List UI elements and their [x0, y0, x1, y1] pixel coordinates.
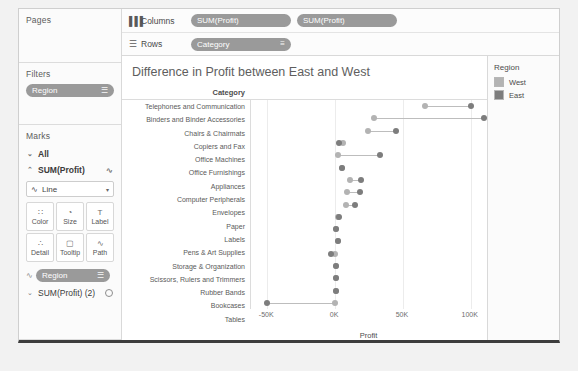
row-label[interactable]: Computer Peripherals	[122, 193, 250, 206]
legend-item-east[interactable]: East	[494, 90, 553, 100]
legend-label-east: East	[509, 91, 524, 100]
worksheet-sheet: Difference in Profit between East and We…	[122, 56, 487, 340]
data-point-west[interactable]	[371, 115, 377, 121]
data-point-east[interactable]	[377, 152, 383, 158]
filter-pill-region[interactable]: Region ☰	[26, 84, 114, 97]
rows-icon: ☰	[129, 39, 141, 49]
connector-line	[368, 131, 396, 132]
mark-property-label-label: Label	[91, 218, 108, 225]
mark-property-label[interactable]: T Label	[86, 202, 114, 231]
row-label[interactable]: Appliances	[122, 180, 250, 193]
chevron-down-icon: ▾	[106, 186, 109, 193]
marks-group-sum-profit[interactable]: ⌃ SUM(Profit) ∿	[26, 162, 114, 178]
color-legend-icon[interactable]: ☰	[97, 272, 104, 280]
row-axis-labels: Telephones and CommunicationBinders and …	[122, 99, 250, 326]
gridline	[471, 100, 472, 309]
data-point-east[interactable]	[333, 263, 339, 269]
row-label[interactable]: Rubber Bands	[122, 286, 250, 299]
data-point-east[interactable]	[328, 251, 334, 257]
data-point-east[interactable]	[357, 189, 363, 195]
mark-property-size-label: Size	[63, 218, 77, 225]
row-label[interactable]: Pens & Art Supplies	[122, 246, 250, 259]
data-point-west[interactable]	[344, 189, 350, 195]
x-tick-label: 0K	[330, 311, 339, 318]
row-label[interactable]: Storage & Organization	[122, 260, 250, 273]
columns-pill-1[interactable]: SUM(Profit)	[191, 14, 291, 27]
row-label[interactable]: Binders and Binder Accessories	[122, 113, 250, 126]
x-tick-label: 50K	[396, 311, 408, 318]
row-label[interactable]: Office Machines	[122, 153, 250, 166]
data-point-east[interactable]	[358, 177, 364, 183]
data-point-west[interactable]	[335, 152, 341, 158]
data-point-east[interactable]	[393, 128, 399, 134]
row-label[interactable]: Paper	[122, 220, 250, 233]
rows-pill-category-label: Category	[197, 40, 229, 49]
row-label[interactable]: Envelopes	[122, 206, 250, 219]
data-point-east[interactable]	[352, 202, 358, 208]
marks-group-all-label: All	[38, 149, 49, 159]
data-point-east[interactable]	[333, 226, 339, 232]
chevron-down-icon: ⌄	[27, 150, 34, 158]
data-point-west[interactable]	[422, 103, 428, 109]
data-point-west[interactable]	[347, 177, 353, 183]
legend-label-west: West	[509, 78, 526, 87]
data-point-west[interactable]	[365, 128, 371, 134]
row-label[interactable]: Copiers and Fax	[122, 140, 250, 153]
panel-column: -50K0K50K100K Profit	[250, 86, 487, 340]
rows-shelf[interactable]: ☰ Rows Category ≡	[122, 32, 559, 55]
data-point-east[interactable]	[336, 140, 342, 146]
marks-group-all[interactable]: ⌄ All	[26, 146, 114, 162]
columns-pill-2[interactable]: SUM(Profit)	[297, 14, 397, 27]
columns-shelf[interactable]: ▌▌▌ Columns SUM(Profit) SUM(Profit)	[122, 9, 559, 32]
mark-property-color-label: Color	[32, 218, 49, 225]
row-label[interactable]: Labels	[122, 233, 250, 246]
data-point-east[interactable]	[333, 275, 339, 281]
data-point-east[interactable]	[333, 288, 339, 294]
data-point-west[interactable]	[332, 300, 338, 306]
pages-card: Pages	[19, 9, 121, 63]
mark-property-path[interactable]: ∿ Path	[86, 233, 114, 262]
rows-pill-category[interactable]: Category ≡	[191, 38, 291, 51]
row-label[interactable]: Tables	[122, 313, 250, 326]
mark-property-detail[interactable]: ∴ Detail	[26, 233, 54, 262]
data-point-east[interactable]	[264, 300, 270, 306]
chart-panel[interactable]	[250, 99, 487, 309]
size-icon: ◔	[68, 208, 73, 217]
line-icon: ∿	[31, 185, 38, 194]
marks-card-title: Marks	[26, 131, 114, 141]
x-tick-label: 100K	[462, 311, 478, 318]
data-point-east[interactable]	[481, 115, 487, 121]
row-label[interactable]: Chairs & Chairmats	[122, 127, 250, 140]
mark-type-dropdown[interactable]: ∿ Line ▾	[26, 181, 114, 197]
data-point-east[interactable]	[336, 214, 342, 220]
detail-icon: ∴	[38, 239, 43, 248]
row-label[interactable]: Scissors, Rulers and Trimmers	[122, 273, 250, 286]
mark-type-value: Line	[42, 185, 57, 194]
row-label[interactable]: Telephones and Communication	[122, 100, 250, 113]
filter-icon[interactable]: ☰	[101, 87, 108, 95]
sort-icon[interactable]: ≡	[280, 40, 285, 48]
marks-group-sum-profit-label: SUM(Profit)	[38, 165, 85, 175]
row-label[interactable]: Office Furnishings	[122, 166, 250, 179]
left-sidebar: Pages Filters Region ☰ Marks ⌄ All ⌃ SUM…	[19, 9, 122, 340]
rows-shelf-label: Rows	[141, 39, 191, 49]
data-point-east[interactable]	[335, 238, 341, 244]
rows-shelf-pills: Category ≡	[191, 38, 291, 51]
connector-line	[338, 155, 380, 156]
data-point-east[interactable]	[339, 165, 345, 171]
mark-properties-grid: ∷ Color ◔ Size T Label ∴ Detail	[26, 202, 114, 262]
shelves-area: ▌▌▌ Columns SUM(Profit) SUM(Profit) ☰ Ro…	[122, 9, 559, 56]
row-label[interactable]: Bookcases	[122, 299, 250, 312]
chevron-up-icon: ⌃	[27, 166, 34, 174]
mark-property-tooltip[interactable]: ▢ Tooltip	[56, 233, 84, 262]
marks-pill-region[interactable]: Region ☰	[36, 269, 110, 282]
mark-property-size[interactable]: ◔ Size	[56, 202, 84, 231]
mark-property-color[interactable]: ∷ Color	[26, 202, 54, 231]
data-point-west[interactable]	[343, 202, 349, 208]
chevron-down-icon: ⌄	[27, 289, 34, 297]
legend-item-west[interactable]: West	[494, 77, 553, 87]
legend-panel: Region West East	[487, 56, 559, 340]
data-point-east[interactable]	[468, 103, 474, 109]
columns-icon: ▌▌▌	[129, 16, 141, 26]
marks-group-sum-profit-2[interactable]: ⌄ SUM(Profit) (2)	[26, 282, 114, 301]
